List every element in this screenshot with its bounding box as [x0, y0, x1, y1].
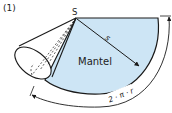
apex-label: S — [72, 7, 77, 17]
cone-net-diagram: (1) S s Mantel 2 · π · r — [0, 0, 172, 113]
mantel-label: Mantel — [78, 56, 112, 67]
figure-label: (1) — [3, 3, 16, 13]
arc-tick-left — [30, 86, 34, 96]
